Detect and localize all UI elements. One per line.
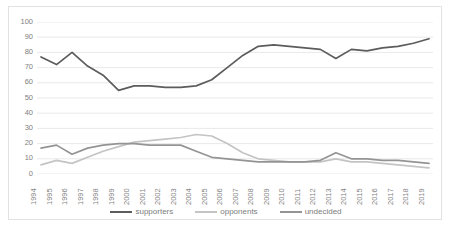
legend-swatch-icon (110, 211, 132, 213)
legend-item-supporters[interactable]: supporters (110, 207, 173, 216)
x-tick-label: 1996 (61, 188, 69, 205)
x-tick-label: 1995 (46, 188, 54, 205)
x-tick-label: 2005 (201, 188, 209, 205)
legend-swatch-icon (195, 211, 217, 213)
legend-item-opponents[interactable]: opponents (195, 207, 257, 216)
y-tick-label: 100 (11, 18, 33, 26)
y-tick-label: 70 (11, 63, 33, 71)
x-tick-label: 2017 (387, 188, 395, 205)
series-line-opponents (41, 134, 429, 167)
legend-item-undecided[interactable]: undecided (280, 207, 342, 216)
plot-area (37, 22, 433, 174)
y-tick-label: 50 (11, 94, 33, 102)
x-tick-label: 2012 (309, 188, 317, 205)
x-tick-label: 2003 (170, 188, 178, 205)
y-tick-label: 80 (11, 48, 33, 56)
x-tick-label: 2004 (185, 188, 193, 205)
legend-label: supporters (135, 207, 173, 216)
x-tick-label: 2014 (340, 188, 348, 205)
x-tick-label: 2016 (371, 188, 379, 205)
y-tick-label: 40 (11, 109, 33, 117)
x-tick-label: 2010 (278, 188, 286, 205)
x-tick-label: 2009 (263, 188, 271, 205)
x-tick-label: 1998 (92, 188, 100, 205)
y-tick-label: 60 (11, 78, 33, 86)
chart-container: 1009080706050403020100 19941995199619971… (8, 6, 442, 220)
x-axis-tick-labels: 1994199519961997199819992000200120022003… (37, 175, 437, 205)
y-tick-label: 10 (11, 154, 33, 162)
legend-label: opponents (220, 207, 257, 216)
x-tick-label: 2013 (325, 188, 333, 205)
x-tick-label: 2007 (232, 188, 240, 205)
x-tick-label: 2019 (418, 188, 426, 205)
series-lines (41, 39, 429, 168)
chart-legend: supportersopponentsundecided (9, 207, 443, 216)
x-tick-label: 2000 (123, 188, 131, 205)
x-tick-label: 1999 (108, 188, 116, 205)
x-tick-label: 2018 (402, 188, 410, 205)
line-chart-svg (37, 22, 433, 174)
y-tick-label: 0 (11, 170, 33, 178)
gridlines (37, 22, 433, 174)
y-tick-label: 20 (11, 139, 33, 147)
x-tick-label: 2006 (216, 188, 224, 205)
legend-label: undecided (305, 207, 342, 216)
x-tick-label: 2002 (154, 188, 162, 205)
x-tick-label: 1997 (77, 188, 85, 205)
y-tick-label: 30 (11, 124, 33, 132)
y-tick-label: 90 (11, 33, 33, 41)
x-tick-label: 2015 (356, 188, 364, 205)
x-tick-label: 2001 (139, 188, 147, 205)
x-tick-label: 2008 (247, 188, 255, 205)
legend-swatch-icon (280, 211, 302, 213)
x-tick-label: 1994 (30, 188, 38, 205)
x-tick-label: 2011 (294, 189, 302, 205)
